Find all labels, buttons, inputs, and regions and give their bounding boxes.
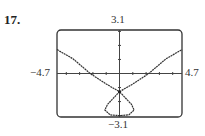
axes [57,30,182,117]
crossing-point [118,90,121,93]
graph-plot [0,0,205,136]
